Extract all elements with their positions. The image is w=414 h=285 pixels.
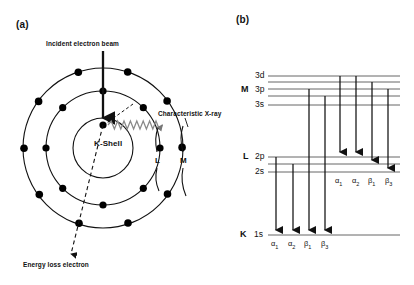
electron-dot [35,98,43,106]
orbital-label-3d: 3d [255,70,264,80]
incident-beam-label: Incident electron beam [46,40,119,47]
l-series-label-alpha2: α2 [352,176,359,187]
k-shell-label: K-Shell [94,139,122,148]
shell-label-k: K [240,229,247,239]
electron-dot [59,104,66,111]
energy-levels [268,76,400,235]
l-series-label-beta1: β1 [368,176,375,187]
shell-label-m: M [241,84,249,94]
energy-loss-label: Energy loss electron [23,261,89,268]
electron-dot [75,69,83,77]
electron-dot [163,97,171,105]
m-leader-line-lower [182,168,186,196]
k-series-arrows [276,89,325,230]
m-shell-label: M [180,156,187,165]
electron-dot [140,104,147,111]
orbital-label-1s: 1s [254,229,263,239]
electron-dot [42,144,49,151]
electron-dot [36,191,44,199]
l-leader-line-lower [156,168,159,191]
panel-b-graphic [215,0,414,285]
figure-container: (a) [0,0,414,285]
electron-dot [164,190,172,198]
k-series-label-alpha2: α2 [288,239,295,250]
k-series-label-beta1: β1 [304,239,311,250]
electron-dot [99,201,106,208]
electron-dot [124,219,132,227]
l-series-arrows [340,76,388,168]
l-shell-label: L [155,156,160,165]
xray-leader-line [185,118,188,127]
electron-dot [124,68,132,76]
characteristic-xray-label: Characteristic X-ray [158,110,221,117]
orbital-label-2p: 2p [255,151,264,161]
electron-dot [20,144,28,152]
orbital-label-2s: 2s [255,166,264,176]
l-series-label-alpha1: α1 [335,176,342,187]
orbital-label-3s: 3s [255,99,264,109]
shell-label-l: L [243,151,249,161]
k-series-label-beta3: β3 [321,239,328,250]
orbital-label-3p: 3p [255,84,264,94]
electron-dot [140,185,147,192]
electron-dot [59,185,66,192]
electron-dot [156,144,163,151]
k-series-label-alpha1: α1 [271,239,278,250]
l-series-label-beta3: β3 [385,176,392,187]
